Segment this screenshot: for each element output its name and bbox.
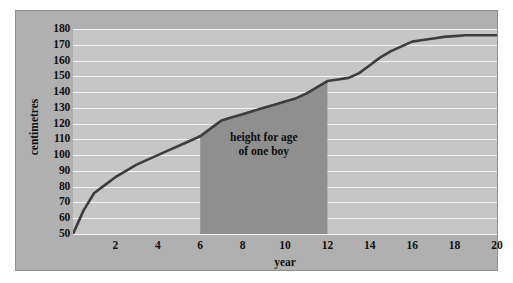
y-tick-label: 170: [32, 39, 70, 50]
y-tick-label: 160: [32, 55, 70, 66]
y-tick-label: 70: [32, 196, 70, 207]
chart-panel: centimetres 5060708090100110120130140150…: [15, 10, 498, 271]
x-tick-label: 8: [240, 239, 246, 251]
y-tick-label: 130: [32, 102, 70, 113]
gridline: [73, 234, 497, 235]
x-axis-title: year: [73, 256, 497, 268]
x-tick-label: 6: [197, 239, 203, 251]
y-axis-tick-labels: 5060708090100110120130140150160170180: [30, 29, 70, 234]
x-tick-label: 18: [449, 239, 461, 251]
y-tick-label: 60: [32, 212, 70, 223]
x-tick-label: 10: [279, 239, 291, 251]
growth-curve-svg: [73, 29, 497, 234]
x-tick-label: 12: [322, 239, 334, 251]
x-tick-label: 16: [406, 239, 418, 251]
x-tick-label: 4: [155, 239, 161, 251]
plot-area: height for age of one boy: [73, 29, 497, 234]
y-tick-label: 140: [32, 86, 70, 97]
x-tick-label: 14: [364, 239, 376, 251]
x-tick-label: 20: [491, 239, 503, 251]
y-tick-label: 100: [32, 149, 70, 160]
y-tick-label: 110: [32, 133, 70, 144]
shaded-band-region: [200, 81, 327, 234]
y-tick-label: 50: [32, 228, 70, 239]
x-axis-tick-labels: 2468101214161820: [73, 239, 497, 255]
x-tick-label: 2: [113, 239, 119, 251]
y-tick-label: 80: [32, 181, 70, 192]
chart-figure: centimetres 5060708090100110120130140150…: [0, 0, 513, 283]
y-tick-label: 180: [32, 23, 70, 34]
y-tick-label: 120: [32, 118, 70, 129]
y-tick-label: 150: [32, 70, 70, 81]
y-tick-label: 90: [32, 165, 70, 176]
